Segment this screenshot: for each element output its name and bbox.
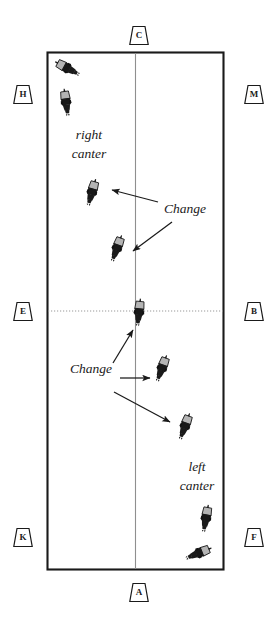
- marker-h-label: H: [19, 89, 26, 99]
- change-upper-label: Change: [164, 201, 206, 216]
- marker-f-label: F: [251, 532, 257, 542]
- left-canter-label-line2: canter: [180, 478, 215, 493]
- marker-m[interactable]: M: [245, 86, 263, 104]
- marker-a[interactable]: A: [130, 584, 148, 602]
- marker-e[interactable]: E: [14, 303, 32, 321]
- marker-h[interactable]: H: [14, 86, 32, 104]
- marker-a-label: A: [136, 587, 143, 597]
- marker-k[interactable]: K: [14, 529, 32, 547]
- marker-e-label: E: [20, 306, 26, 316]
- marker-f[interactable]: F: [245, 529, 263, 547]
- marker-c-label: C: [136, 30, 143, 40]
- marker-c[interactable]: C: [130, 27, 148, 45]
- marker-b[interactable]: B: [245, 303, 263, 321]
- marker-m-label: M: [250, 89, 259, 99]
- arena-diagram-svg: C H M E B: [0, 0, 278, 630]
- change-lower-label: Change: [70, 361, 112, 376]
- left-canter-label-line1: left: [188, 459, 206, 474]
- right-canter-label-line2: canter: [72, 146, 107, 161]
- right-canter-label-line1: right: [76, 127, 104, 142]
- marker-k-label: K: [19, 532, 26, 542]
- marker-b-label: B: [251, 306, 257, 316]
- arena-diagram-canvas: C H M E B: [0, 0, 278, 630]
